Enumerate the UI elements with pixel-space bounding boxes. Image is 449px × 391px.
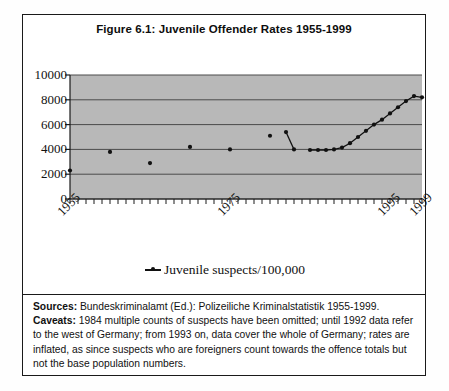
caveats-label: Caveats: bbox=[33, 315, 76, 326]
footnotes: Sources: Bundeskriminalamt (Ed.): Polize… bbox=[33, 300, 417, 371]
figure-title: Figure 6.1: Juvenile Offender Rates 1955… bbox=[23, 23, 425, 35]
sources-text: Bundeskriminalamt (Ed.): Polizeiliche Kr… bbox=[77, 301, 379, 312]
caveats-text: 1984 multiple counts of suspects have be… bbox=[33, 315, 413, 369]
footer-divider bbox=[23, 294, 425, 295]
legend-item: Juvenile suspects/100,000 bbox=[145, 261, 305, 278]
legend-label: Juvenile suspects/100,000 bbox=[164, 262, 305, 277]
plot-svg bbox=[23, 45, 427, 270]
chart-legend: Juvenile suspects/100,000 bbox=[23, 261, 427, 278]
figure-frame: Figure 6.1: Juvenile Offender Rates 1955… bbox=[22, 14, 426, 376]
chart-area: 1000080006000400020000 1955197519951999 bbox=[23, 45, 427, 270]
line-marker-symbol-icon bbox=[145, 265, 161, 275]
sources-label: Sources: bbox=[33, 301, 77, 312]
sources-note: Sources: Bundeskriminalamt (Ed.): Polize… bbox=[33, 301, 379, 312]
caveats-note: Caveats: 1984 multiple counts of suspect… bbox=[33, 315, 413, 369]
